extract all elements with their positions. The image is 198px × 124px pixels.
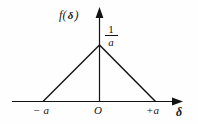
- y-axis-label: f(δ): [59, 9, 79, 21]
- y-axis-arrow-icon: [96, 7, 104, 18]
- peak-fraction-denominator: a: [103, 36, 119, 48]
- triangular-distribution-figure: f(δ) 1 a − a O +a δ: [0, 0, 198, 124]
- x-tick-label-negative-a: − a: [33, 105, 49, 116]
- x-tick-label-positive-a: +a: [146, 105, 159, 116]
- x-tick-label-origin: O: [94, 105, 102, 116]
- pdf-left-edge: [43, 45, 100, 102]
- y-axis-label-variable: δ: [67, 9, 75, 21]
- y-axis-label-close-paren: ): [75, 8, 79, 22]
- peak-value-fraction: 1 a: [103, 24, 119, 48]
- peak-fraction-numerator: 1: [103, 24, 119, 35]
- x-axis-label: δ: [176, 106, 182, 118]
- pdf-right-edge: [100, 45, 156, 102]
